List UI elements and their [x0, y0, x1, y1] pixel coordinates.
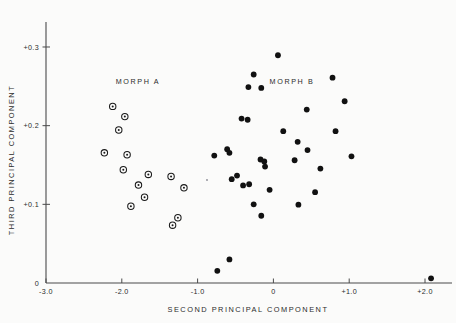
axes-group — [46, 22, 452, 283]
data-point-morph-a-center — [172, 224, 174, 226]
data-point-morph-b — [240, 183, 246, 189]
data-point-morph-b — [330, 75, 336, 81]
x-tick-label: -2.0 — [115, 287, 129, 296]
x-tick-label: -1.0 — [191, 287, 205, 296]
data-point-morph-b — [317, 166, 323, 172]
y-tick-label: +0.3 — [23, 43, 39, 52]
data-point-morph-a-center — [130, 205, 132, 207]
data-point-morph-b — [304, 107, 310, 113]
stray-speck-artifact — [206, 179, 208, 181]
figure-canvas: -3.0-2.0-1.00+1.0+2.0 0+0.1+0.2+0.3 SECO… — [0, 0, 456, 323]
data-point-morph-a-center — [137, 184, 139, 186]
x-axis-ticks: -3.0-2.0-1.00+1.0+2.0 — [39, 279, 433, 297]
data-point-morph-b — [349, 153, 355, 159]
data-point-morph-a-center — [183, 187, 185, 189]
data-point-morph-b — [280, 128, 286, 134]
y-tick-label: +0.2 — [23, 121, 39, 130]
data-point-morph-a-center — [122, 169, 124, 171]
data-point-morph-b — [227, 150, 233, 156]
data-point-morph-b — [305, 147, 311, 153]
data-point-morph-b — [333, 128, 339, 134]
data-point-morph-b — [292, 157, 298, 163]
x-tick-label: +2.0 — [417, 287, 433, 296]
data-point-morph-b — [275, 52, 281, 58]
group-label-morph-a: MORPH A — [116, 77, 160, 86]
data-point-morph-b — [246, 181, 252, 187]
data-point-morph-b — [251, 72, 257, 78]
data-point-morph-b — [211, 153, 217, 159]
data-point-morph-b — [262, 164, 268, 170]
x-tick-label: -3.0 — [39, 287, 53, 296]
data-point-morph-b — [245, 117, 251, 123]
data-point-morph-b — [234, 173, 240, 179]
data-point-morph-b — [239, 116, 245, 122]
series-morph-b-points — [211, 52, 434, 281]
data-point-morph-b — [261, 159, 267, 165]
group-label-morph-b: MORPH B — [270, 77, 315, 86]
scatter-plot: -3.0-2.0-1.00+1.0+2.0 0+0.1+0.2+0.3 SECO… — [0, 0, 456, 323]
data-point-morph-a-center — [112, 105, 114, 107]
x-axis-title: SECOND PRINCIPAL COMPONENT — [168, 305, 329, 314]
data-point-morph-b — [229, 176, 235, 182]
data-point-morph-b — [227, 256, 233, 262]
data-point-morph-b — [267, 187, 273, 193]
data-point-morph-b — [245, 84, 251, 90]
x-tick-label: +1.0 — [341, 287, 357, 296]
y-tick-label: +0.1 — [23, 200, 39, 209]
data-point-morph-a-center — [170, 175, 172, 177]
data-point-morph-a-center — [144, 196, 146, 198]
data-point-morph-a-center — [126, 154, 128, 156]
data-point-morph-a-center — [124, 116, 126, 118]
data-point-morph-b — [214, 268, 220, 274]
y-tick-label: 0 — [35, 279, 39, 288]
data-point-morph-b — [312, 189, 318, 195]
data-point-morph-b — [342, 98, 348, 104]
data-point-morph-b — [258, 213, 264, 219]
data-point-morph-a-center — [103, 152, 105, 154]
data-point-morph-a-center — [118, 129, 120, 131]
data-point-morph-b — [258, 85, 264, 91]
y-axis-title: THIRD PRINCIPAL COMPONENT — [7, 85, 16, 235]
data-point-morph-b — [295, 139, 301, 145]
data-point-morph-a-center — [177, 217, 179, 219]
group-annotations: MORPH AMORPH B — [116, 77, 315, 86]
data-point-morph-b — [296, 202, 302, 208]
series-morph-a-points — [101, 103, 187, 228]
data-point-morph-b — [251, 201, 257, 207]
x-tick-label: 0 — [271, 287, 275, 296]
data-point-morph-a-center — [147, 173, 149, 175]
data-point-morph-b — [428, 275, 434, 281]
